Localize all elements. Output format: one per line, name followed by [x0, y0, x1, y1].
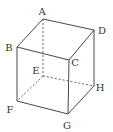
hidden-edge-EF: [17, 76, 43, 101]
vertex-label-a: A: [37, 6, 46, 17]
vertex-label-g: G: [63, 120, 71, 131]
edge-FG: [17, 101, 68, 114]
cube-diagram: A B C D E F G H: [0, 0, 113, 132]
vertex-label-b: B: [5, 42, 12, 53]
vertex-label-e: E: [32, 65, 39, 76]
vertex-label-c: C: [71, 57, 79, 68]
edge-GH: [68, 86, 94, 114]
vertex-label-d: D: [98, 25, 106, 36]
vertex-label-h: H: [96, 82, 105, 93]
edge-CG: [68, 60, 69, 114]
edge-CD: [69, 30, 94, 60]
edge-AB: [17, 19, 43, 47]
edge-AD: [43, 19, 94, 30]
vertex-label-f: F: [7, 104, 14, 115]
